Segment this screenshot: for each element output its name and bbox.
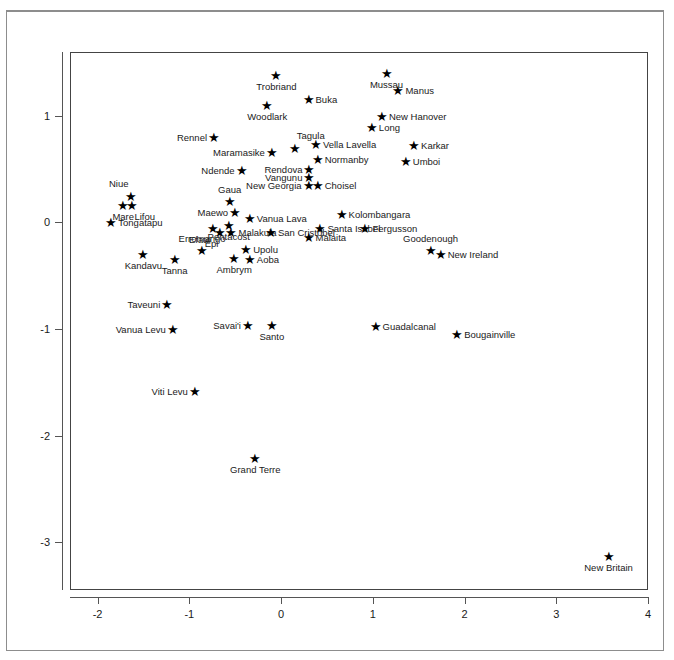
star-icon: ★ — [359, 221, 371, 234]
data-point-label: Kandavu — [125, 261, 163, 271]
data-point-label: Kolombangara — [349, 210, 411, 220]
data-point-label: Santo — [259, 332, 284, 342]
star-icon: ★ — [105, 216, 117, 229]
star-icon: ★ — [167, 322, 179, 335]
star-icon: ★ — [435, 248, 447, 261]
x-tick-label: 1 — [370, 608, 376, 620]
x-tick-label: -1 — [184, 608, 194, 620]
data-point-label: Long — [379, 123, 400, 133]
data-point-label: Choisel — [325, 181, 357, 191]
star-icon: ★ — [161, 298, 173, 311]
scatter-plot-area: ★Trobriand★Mussau★Manus★Woodlark★Buka★Ne… — [70, 52, 648, 590]
data-point-label: Viti Levu — [152, 387, 188, 397]
x-tick-mark — [281, 597, 282, 604]
star-icon: ★ — [196, 244, 208, 257]
data-point-label: Gaua — [218, 185, 241, 195]
y-tick-mark — [55, 329, 62, 330]
star-icon: ★ — [392, 84, 404, 97]
figure-page: -2-101234 10-1-2-3 ★Trobriand★Mussau★Man… — [0, 0, 674, 660]
plot-frame — [70, 52, 648, 590]
data-point-label: New Georgia — [246, 181, 301, 191]
star-icon: ★ — [400, 154, 412, 167]
y-tick-mark — [55, 542, 62, 543]
x-tick-label: 0 — [278, 608, 284, 620]
data-point-label: Trobriand — [256, 82, 296, 92]
star-icon: ★ — [266, 318, 278, 331]
star-icon: ★ — [169, 252, 181, 265]
y-tick-mark — [55, 222, 62, 223]
star-icon: ★ — [366, 120, 378, 133]
star-icon: ★ — [336, 207, 348, 220]
x-tick-label: 3 — [553, 608, 559, 620]
x-tick-mark — [98, 597, 99, 604]
data-point-label: Maewo — [198, 208, 229, 218]
star-icon: ★ — [370, 319, 382, 332]
data-point-label: Vanua Lava — [257, 214, 307, 224]
star-icon: ★ — [261, 99, 273, 112]
y-tick-label: -1 — [40, 323, 50, 335]
star-icon: ★ — [225, 226, 237, 239]
x-axis-line — [70, 597, 648, 598]
y-tick-label: 1 — [44, 110, 50, 122]
data-point-label: Guadalcanal — [383, 322, 436, 332]
star-icon: ★ — [242, 318, 254, 331]
star-icon: ★ — [249, 451, 261, 464]
star-icon: ★ — [236, 164, 248, 177]
star-icon: ★ — [270, 69, 282, 82]
data-point-label: Malaita — [316, 233, 347, 243]
x-tick-label: 4 — [645, 608, 651, 620]
y-tick-mark — [55, 436, 62, 437]
data-point-label: Taveuni — [128, 300, 161, 310]
star-icon: ★ — [266, 146, 278, 159]
data-point-label: Karkar — [421, 141, 449, 151]
star-icon: ★ — [228, 251, 240, 264]
data-point-label: Umboi — [413, 157, 440, 167]
star-icon: ★ — [208, 131, 220, 144]
data-point-label: New Britain — [584, 563, 633, 573]
star-icon: ★ — [126, 199, 138, 212]
star-icon: ★ — [137, 248, 149, 261]
y-axis-line — [62, 52, 63, 590]
data-point-label: Buka — [316, 95, 338, 105]
x-tick-mark — [189, 597, 190, 604]
data-point-label: Tongatapu — [118, 218, 162, 228]
star-icon: ★ — [408, 138, 420, 151]
data-point-label: Rennel — [177, 133, 207, 143]
data-point-label: New Hanover — [389, 112, 447, 122]
star-icon: ★ — [381, 67, 393, 80]
data-point-label: Manus — [405, 86, 434, 96]
y-tick-mark — [55, 116, 62, 117]
data-point-label: Tanna — [162, 266, 188, 276]
x-tick-mark — [648, 597, 649, 604]
x-tick-mark — [556, 597, 557, 604]
data-point-label: Erromango — [179, 234, 226, 244]
star-icon: ★ — [451, 328, 463, 341]
star-icon: ★ — [189, 384, 201, 397]
data-point-label: Goodenough — [403, 234, 458, 244]
star-icon: ★ — [303, 231, 315, 244]
data-point-label: Ambrym — [217, 265, 252, 275]
x-tick-label: 2 — [461, 608, 467, 620]
data-point-label: Normanby — [325, 155, 369, 165]
star-icon: ★ — [265, 226, 277, 239]
data-point-label: Savai'i — [213, 321, 241, 331]
data-point-label: Maramasike — [213, 148, 265, 158]
x-tick-mark — [465, 597, 466, 604]
data-point-label: Ndende — [201, 166, 234, 176]
star-icon: ★ — [303, 92, 315, 105]
data-point-label: Bougainville — [464, 330, 515, 340]
data-point-label: Woodlark — [247, 112, 287, 122]
data-point-label: Niue — [109, 179, 129, 189]
star-icon: ★ — [244, 212, 256, 225]
star-icon: ★ — [603, 549, 615, 562]
data-point-label: Grand Terre — [230, 465, 281, 475]
x-tick-label: -2 — [93, 608, 103, 620]
data-point-label: Vanua Levu — [116, 325, 166, 335]
y-tick-label: -3 — [40, 536, 50, 548]
star-icon: ★ — [310, 137, 322, 150]
x-tick-mark — [373, 597, 374, 604]
data-point-label: Aoba — [257, 255, 279, 265]
star-icon: ★ — [289, 141, 301, 154]
data-point-label: Vella Lavella — [323, 140, 376, 150]
y-tick-label: 0 — [44, 216, 50, 228]
